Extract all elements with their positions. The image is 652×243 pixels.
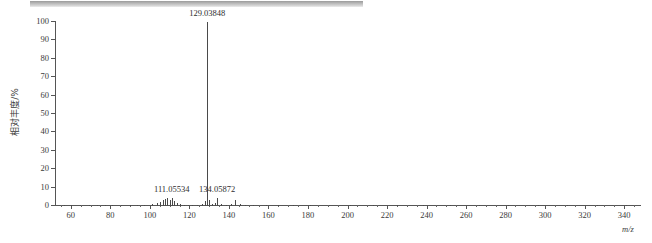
spectrum-peak — [293, 205, 294, 206]
spectrum-peak — [235, 200, 236, 206]
spectrum-peak — [170, 200, 171, 206]
spectrum-peak — [266, 205, 267, 206]
peak-label-129: 129.03848 — [189, 9, 225, 18]
spectrum-peak — [130, 205, 131, 206]
x-tick-label: 300 — [539, 211, 552, 220]
spectrum-peak — [97, 205, 98, 206]
mass-spectrum-figure: 相对丰度/% m/z 0102030405060708090100 608010… — [0, 0, 652, 243]
spectrum-peak — [329, 205, 330, 206]
spectrum-peak — [221, 204, 222, 206]
spectrum-peak — [105, 205, 106, 206]
spectrum-peak — [231, 204, 232, 206]
peak-label-134: 134.05872 — [199, 185, 235, 194]
spectrum-peak — [626, 205, 627, 206]
spectrum-peak — [165, 199, 166, 206]
spectrum-peak — [310, 205, 311, 206]
spectrum-peak — [508, 205, 509, 206]
plot-area: 0102030405060708090100 60801001201401601… — [55, 21, 640, 205]
x-tick-label: 160 — [262, 211, 275, 220]
spectrum-peak — [167, 198, 168, 206]
x-tick-label: 280 — [499, 211, 512, 220]
spectrum-peak — [209, 200, 210, 206]
spectrum-peak — [226, 205, 227, 206]
x-tick-label: 100 — [143, 211, 156, 220]
spectrum-peak — [205, 201, 206, 206]
x-tick-label: 60 — [67, 211, 76, 220]
y-tick-label: 50 — [41, 108, 50, 118]
peak-group — [55, 21, 641, 206]
peak-label-111: 111.05534 — [154, 185, 190, 194]
spectrum-peak — [89, 205, 90, 206]
spectrum-peak — [450, 205, 451, 206]
y-tick-label: 0 — [45, 200, 49, 210]
spectrum-peak — [152, 204, 153, 206]
spectrum-peak — [177, 203, 178, 206]
x-tick-label: 200 — [341, 211, 354, 220]
x-tick-label: 220 — [381, 211, 394, 220]
spectrum-peak — [80, 205, 81, 206]
spectrum-peak — [163, 200, 164, 206]
spectrum-peak — [567, 205, 568, 206]
spectrum-peak — [64, 205, 65, 206]
spectrum-peak — [397, 205, 398, 206]
spectrum-peak — [174, 201, 175, 206]
x-tick-label: 80 — [106, 211, 115, 220]
spectrum-peak — [538, 205, 539, 206]
y-tick-label: 100 — [36, 16, 49, 26]
x-tick-label: 180 — [302, 211, 315, 220]
spectrum-peak — [184, 205, 185, 206]
spectrum-peak — [423, 205, 424, 206]
spectrum-peak — [202, 204, 203, 206]
spectrum-peak — [350, 205, 351, 206]
spectrum-peak — [278, 205, 279, 206]
y-tick-label: 90 — [41, 34, 50, 44]
spectrum-peak — [71, 205, 72, 206]
x-tick-label: 140 — [223, 211, 236, 220]
spectrum-peak — [121, 205, 122, 206]
y-tick-label: 30 — [41, 145, 50, 155]
spectrum-peak — [157, 203, 158, 206]
spectrum-peak — [479, 205, 480, 206]
x-tick-label: 120 — [183, 211, 196, 220]
spectrum-peak — [137, 205, 138, 206]
spectrum-peak — [188, 205, 189, 206]
y-tick-label: 60 — [41, 90, 50, 100]
x-tick-label: 340 — [618, 211, 631, 220]
spectrum-peak — [112, 205, 113, 206]
spectrum-peak — [597, 205, 598, 206]
y-tick-label: 10 — [41, 182, 50, 192]
spectrum-peak — [253, 205, 254, 206]
y-tick-label: 20 — [41, 163, 50, 173]
spectrum-peak — [217, 198, 218, 206]
spectrum-peak — [192, 205, 193, 206]
x-tick-label: 240 — [420, 211, 433, 220]
y-axis-title: 相对丰度/% — [8, 88, 21, 136]
x-tick-label: 260 — [460, 211, 473, 220]
spectrum-peak — [212, 204, 213, 206]
window-chrome-strip — [30, 1, 363, 7]
x-tick-label: 320 — [578, 211, 591, 220]
spectrum-peak — [373, 205, 374, 206]
y-tick-label: 40 — [41, 126, 50, 136]
spectrum-peak — [180, 204, 181, 206]
spectrum-peak — [144, 205, 145, 206]
y-tick-label: 80 — [41, 53, 50, 63]
x-axis-title: m/z — [622, 224, 634, 234]
spectrum-peak — [207, 22, 208, 206]
spectrum-peak — [240, 204, 241, 206]
spectrum-peak — [172, 198, 173, 206]
y-tick-label: 70 — [41, 71, 50, 81]
spectrum-peak — [160, 202, 161, 206]
spectrum-peak — [215, 203, 216, 206]
spectrum-peak — [245, 205, 246, 206]
spectrum-peak — [197, 205, 198, 206]
